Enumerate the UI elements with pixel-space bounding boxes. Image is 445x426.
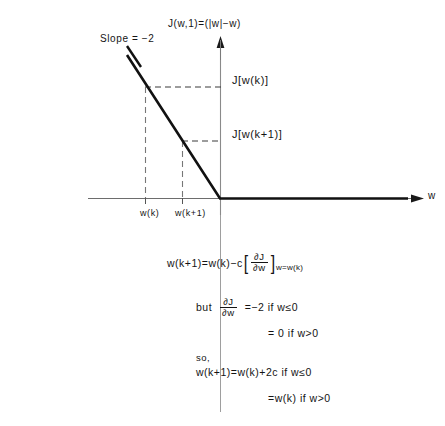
w-axis-arrowhead — [411, 195, 424, 203]
so-keyword: so, — [196, 352, 210, 363]
equation-derivative-case-negative: but ∂J ∂w =−2 if w≤0 — [196, 297, 298, 318]
tick-label-wk: w(k) — [140, 208, 159, 218]
cost-function-expression: J(w,1)=(|w|−w) — [168, 18, 241, 29]
partial-derivative-fraction-2: ∂J ∂w — [220, 297, 237, 318]
evaluation-subscript: w=w(k) — [276, 263, 303, 273]
partial-derivative-fraction: ∂J ∂w — [251, 252, 268, 273]
derivative-value-positive: = 0 if w>0 — [268, 327, 319, 339]
slope-annotation: Slope = −2 — [100, 33, 154, 44]
fraction-numerator: ∂J — [221, 297, 235, 307]
equation-result-case-negative: w(k+1)=w(k)+2c if w≤0 — [196, 366, 312, 378]
tick-label-wk-plus-1: w(k+1) — [175, 208, 206, 218]
bracket-close: ] — [270, 252, 275, 273]
result-negative: w(k+1)=w(k)+2c if w≤0 — [196, 366, 312, 378]
conclusion-intro: so, — [196, 352, 210, 363]
bracket-open: [ — [243, 252, 248, 273]
derivative-value-negative: =−2 if w≤0 — [245, 301, 298, 313]
result-positive: =w(k) if w>0 — [268, 392, 331, 404]
equation-derivative-case-positive: = 0 if w>0 — [268, 327, 319, 339]
but-keyword: but — [196, 301, 212, 313]
j-of-wk-label: J[w(k)] — [232, 74, 269, 86]
equation-result-case-positive: =w(k) if w>0 — [268, 392, 331, 404]
j-of-wk-plus-1-label: J[w(k+1)] — [232, 128, 282, 140]
update-lhs: w(k+1)=w(k)−c — [167, 257, 243, 269]
fraction-numerator: ∂J — [252, 252, 266, 262]
w-axis-label: w — [428, 190, 436, 201]
fraction-denominator: ∂w — [220, 307, 237, 318]
cost-function-figure — [0, 0, 445, 426]
fraction-denominator: ∂w — [251, 262, 268, 273]
equation-weight-update: w(k+1)=w(k)−c [ ∂J ∂w ] w=w(k) — [167, 252, 303, 273]
